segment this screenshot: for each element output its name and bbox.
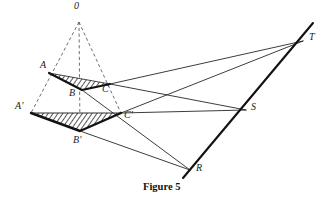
line-C-S [110,84,246,110]
line-B-R [82,90,190,170]
point-label-T: T [309,32,315,42]
point-label-R: R [196,163,202,173]
point-label-B: B [69,88,75,98]
point-label-O: 0 [74,1,79,11]
point-label-A-prime: A' [15,101,24,111]
thick-axis-line [183,23,313,178]
point-label-S: S [251,102,256,112]
line-Cp-S [121,110,246,113]
point-label-B-prime: B' [73,135,82,145]
line-Bp-R [80,131,190,170]
dashed-line-O-Ap [31,22,79,113]
lower-triangle-ApBpCp [31,113,121,131]
geometry-diagram [0,0,328,200]
figure-caption: Figure 5 [143,182,180,193]
point-label-C-prime: C' [124,110,133,120]
point-label-C: C [102,84,109,94]
line-R-S-T [183,23,313,178]
line-C-T [110,41,303,84]
dashed-line-O-Cp [79,22,121,113]
point-label-A: A [40,60,46,70]
figure-5-container: 0 A B C A' B' C' R S T Figure 5 [0,0,328,200]
perspective-rays [80,41,303,170]
line-Cp-T [121,41,303,113]
